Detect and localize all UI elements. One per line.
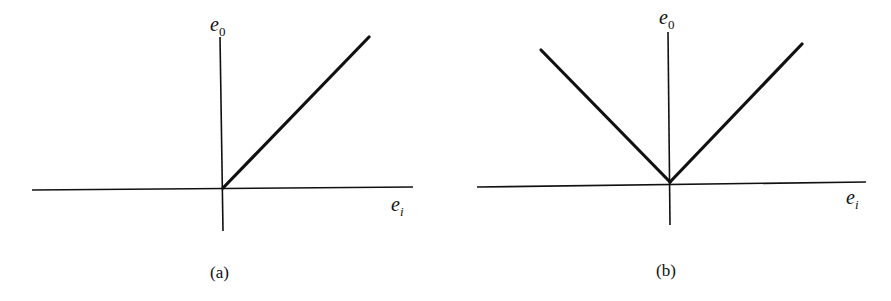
panel-b-y-label: e0 <box>659 6 674 32</box>
panel-a-y-label: e0 <box>210 13 225 39</box>
panel-b-caption: (b) <box>656 261 676 280</box>
panel-b-x-label: ei <box>846 186 859 212</box>
panel-a-caption: (a) <box>210 263 229 282</box>
panel-b-y-axis <box>668 32 670 225</box>
panel-b-transfer-curve-right <box>670 44 802 182</box>
panel-a-x-label: ei <box>391 193 404 219</box>
panel-a-y-axis <box>220 37 223 231</box>
panel-b-x-axis <box>477 182 866 187</box>
panel-a: e0 ei (a) <box>32 13 413 282</box>
panel-b-transfer-curve-left <box>541 50 670 182</box>
panel-a-transfer-curve <box>223 37 369 188</box>
figure-canvas: e0 ei (a) e0 ei (b) <box>0 0 891 301</box>
panel-b: e0 ei (b) <box>477 6 866 280</box>
